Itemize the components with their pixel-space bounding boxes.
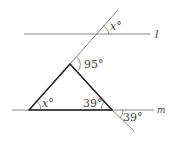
angle-label-left: x° [42, 97, 54, 110]
transversal-upper [70, 10, 118, 64]
angle-label-apex: 95° [84, 58, 104, 71]
angle-arc-apex [77, 57, 80, 72]
angle-arc-top [103, 26, 109, 34]
angle-label-right-inner: 39° [83, 97, 103, 110]
geometry-diagram: l m x° 95° x° 39° 39° [0, 0, 174, 142]
line-m-label: m [157, 105, 166, 115]
angle-arc-left [37, 101, 41, 110]
line-l-label: l [155, 28, 159, 41]
angle-label-right-outer: 39° [123, 111, 143, 124]
angle-label-top: x° [110, 20, 122, 33]
